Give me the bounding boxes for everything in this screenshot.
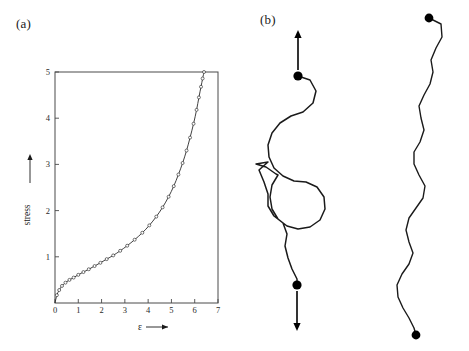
coiled-chain-endpoint-bottom xyxy=(292,280,301,289)
figure-container: (a) (b) 01234567 12345 ε stress xyxy=(0,0,469,351)
extended-chain-endpoint-bottom xyxy=(412,331,421,340)
tension-arrow-up-icon xyxy=(294,30,301,70)
polymer-chain-diagrams xyxy=(0,0,469,351)
extended-chain-path xyxy=(397,18,442,335)
coiled-chain-endpoint-top xyxy=(293,71,302,80)
tension-arrow-down-icon xyxy=(293,291,300,331)
coiled-polymer-chain xyxy=(256,30,325,331)
extended-polymer-chain xyxy=(397,14,442,340)
coiled-chain-path xyxy=(256,76,325,285)
extended-chain-endpoint-top xyxy=(425,14,434,23)
